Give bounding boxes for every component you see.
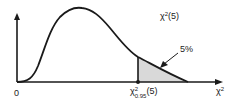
critical-value-point [136,80,140,84]
curve-label-sup: 2 [165,11,168,17]
curve-label: χ2(5) [160,11,179,22]
chi-square-diagram: χ2(5) 5% 0 χ2 χ20.95(5) [0,0,242,109]
x-axis-label: χ2 [216,86,224,97]
critical-label-rest: (5) [146,86,157,96]
tail-percent-label: 5% [180,44,193,54]
critical-label-sup: 2 [135,86,147,92]
curve-label-rest: (5) [168,11,179,21]
chi-square-plot [0,0,242,109]
x-axis-label-sup: 2 [221,86,224,92]
critical-value-label: χ20.95(5) [130,86,157,99]
y-axis-arrow-icon [14,13,20,20]
origin-label: 0 [14,88,19,98]
x-axis-arrow-icon [215,79,223,85]
tail-pointer-line [164,53,178,64]
critical-label-sub: 0.95 [135,93,147,99]
